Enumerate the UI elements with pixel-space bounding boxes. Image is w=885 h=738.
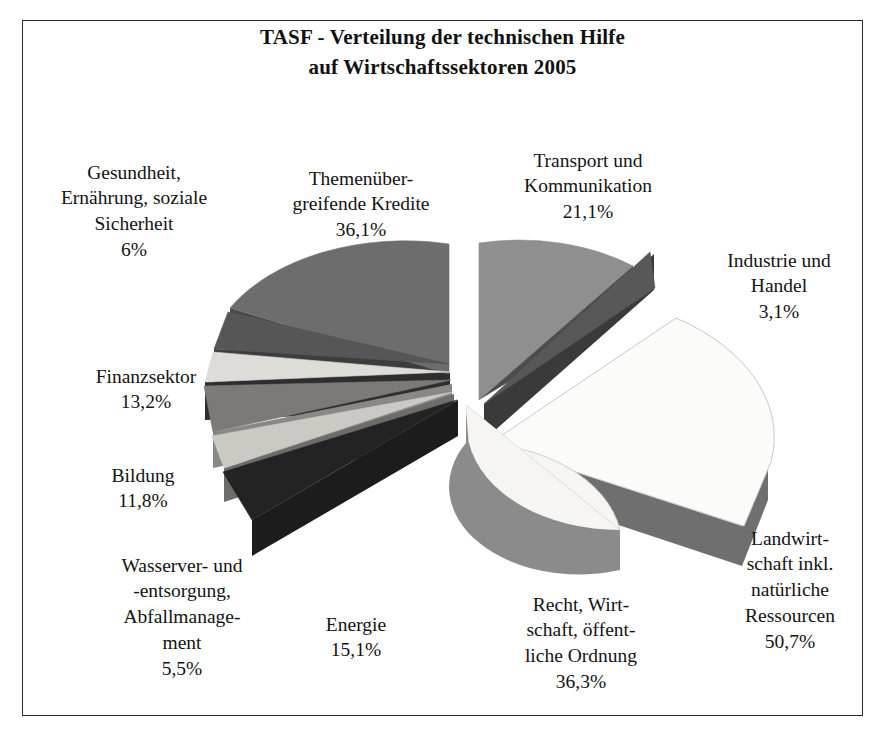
slice-label-themen-text: Themenüber- greifende Kredite	[293, 168, 430, 215]
slice-label-gesundheit: Gesundheit, Ernährung, soziale Sicherhei…	[28, 134, 240, 288]
slice-label-energie-text: Energie	[326, 614, 386, 635]
slice-label-wasser-pct: 5,5%	[162, 658, 203, 679]
slice-label-energie: Energie 15,1%	[286, 586, 426, 689]
slice-label-industrie: Industrie und Handel 3,1%	[690, 222, 868, 351]
slice-label-bildung-text: Bildung	[112, 465, 175, 486]
slice-label-gesundheit-pct: 6%	[28, 237, 240, 263]
slice-label-transport: Transport und Kommunikation 21,1%	[478, 122, 698, 251]
slice-label-bildung: Bildung 11,8%	[58, 437, 228, 540]
slice-label-finanzsektor-text: Finanzsektor	[96, 366, 197, 387]
slice-label-bildung-pct: 11,8%	[58, 488, 228, 514]
slice-label-recht: Recht, Wirt- schaft, öffent- liche Ordnu…	[484, 566, 678, 720]
chart-canvas: TASF - Verteilung der technischen Hilfe …	[0, 0, 885, 738]
slice-label-finanzsektor: Finanzsektor 13,2%	[52, 338, 240, 441]
slice-label-industrie-pct: 3,1%	[690, 299, 868, 325]
slice-label-landwirtschaft-text: Landwirt- schaft inkl. natürliche Ressou…	[745, 528, 835, 626]
slice-label-gesundheit-text: Gesundheit, Ernährung, soziale Sicherhei…	[61, 162, 207, 234]
slice-label-themen: Themenüber- greifende Kredite 36,1%	[258, 140, 464, 269]
slice-label-recht-pct: 36,3%	[484, 669, 678, 695]
slice-label-industrie-text: Industrie und Handel	[727, 250, 830, 297]
slice-label-recht-text: Recht, Wirt- schaft, öffent- liche Ordnu…	[525, 594, 637, 666]
slice-label-wasser: Wasserver- und -entsorgung, Abfallmanage…	[64, 527, 300, 681]
slice-label-wasser-text: Wasserver- und -entsorgung, Abfallmanage…	[122, 555, 243, 653]
slice-label-themen-pct: 36,1%	[258, 217, 464, 243]
slice-label-transport-pct: 21,1%	[478, 199, 698, 225]
slice-label-energie-pct: 15,1%	[286, 637, 426, 663]
slice-label-finanzsektor-pct: 13,2%	[52, 389, 240, 415]
slice-label-landwirtschaft-pct: 50,7%	[706, 629, 874, 655]
slice-label-transport-text: Transport und Kommunikation	[524, 150, 652, 197]
slice-label-landwirtschaft: Landwirt- schaft inkl. natürliche Ressou…	[706, 500, 874, 680]
